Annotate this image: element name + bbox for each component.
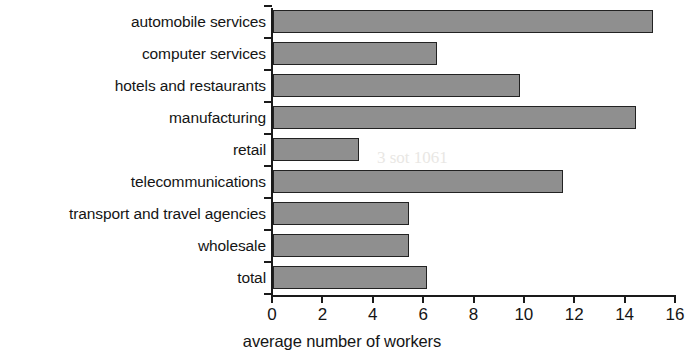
x-axis-tick <box>271 295 273 303</box>
x-axis-tick <box>624 295 626 303</box>
y-axis-tick <box>264 197 272 199</box>
x-axis-tick <box>473 295 475 303</box>
y-axis-tick <box>264 165 272 167</box>
x-axis-tick-label: 4 <box>353 305 393 325</box>
category-label: computer services <box>0 46 266 62</box>
y-axis-tick <box>264 261 272 263</box>
x-axis-tick-label: 10 <box>504 305 544 325</box>
y-axis-tick <box>264 69 272 71</box>
category-label: automobile services <box>0 14 266 30</box>
x-axis-tick-label: 0 <box>252 305 292 325</box>
x-axis-tick <box>674 295 676 303</box>
x-axis-tick-label: 14 <box>605 305 645 325</box>
category-label: telecommunications <box>0 174 266 190</box>
x-axis-tick-label: 6 <box>403 305 443 325</box>
bar <box>273 234 409 257</box>
x-axis-tick-label: 12 <box>554 305 594 325</box>
x-axis-tick-label: 16 <box>655 305 689 325</box>
bar <box>273 42 437 65</box>
x-axis-title: average number of workers <box>0 331 684 351</box>
category-label: manufacturing <box>0 110 266 126</box>
bar <box>273 138 359 161</box>
y-axis-tick <box>264 101 272 103</box>
bar <box>273 266 427 289</box>
y-axis-tick <box>264 133 272 135</box>
category-label: hotels and restaurants <box>0 78 266 94</box>
x-axis-tick <box>372 295 374 303</box>
category-label: retail <box>0 142 266 158</box>
x-axis-tick <box>573 295 575 303</box>
x-axis-tick <box>523 295 525 303</box>
x-axis-tick <box>321 295 323 303</box>
category-label: wholesale <box>0 238 266 254</box>
bar <box>273 170 563 193</box>
x-axis-tick-label: 8 <box>454 305 494 325</box>
y-axis-tick <box>264 229 272 231</box>
bar <box>273 202 409 225</box>
bar <box>273 74 520 97</box>
y-axis-tick <box>264 37 272 39</box>
bar <box>273 10 653 33</box>
bar <box>273 106 636 129</box>
plot-area <box>271 8 675 295</box>
x-axis-tick-label: 2 <box>302 305 342 325</box>
category-axis-labels: automobile servicescomputer serviceshote… <box>0 0 266 295</box>
y-axis-tick <box>264 5 272 7</box>
x-axis-tick <box>422 295 424 303</box>
category-label: transport and travel agencies <box>0 206 266 222</box>
category-label: total <box>0 270 266 286</box>
